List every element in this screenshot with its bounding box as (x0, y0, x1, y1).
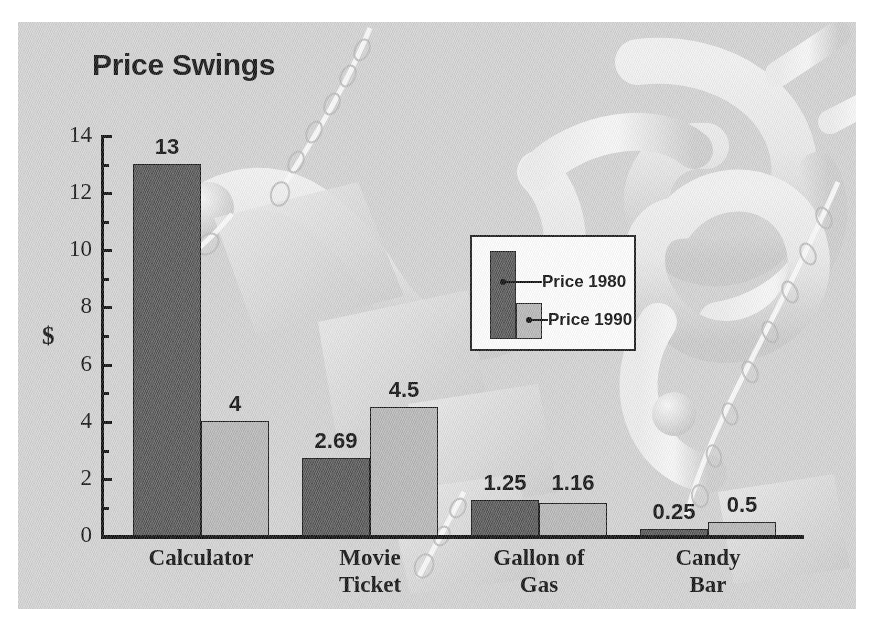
y-tick-label-8: 8 (54, 293, 92, 319)
y-tick-12 (101, 192, 112, 195)
category-label-gallon-of-gas: Gallon of Gas (454, 544, 624, 598)
category-label-movie-ticket: Movie Ticket (285, 544, 455, 598)
legend-label-price-1990: Price 1990 (548, 310, 632, 330)
y-tick-label-12: 12 (54, 179, 92, 205)
bar-value-calculator-1980: 13 (133, 134, 201, 160)
y-tick-minor-5 (101, 392, 109, 395)
bar-candy-bar-1980 (640, 529, 708, 536)
bar-value-gallon-of-gas-1980: 1.25 (467, 470, 543, 496)
bar-value-calculator-1990: 4 (201, 391, 269, 417)
bar-value-candy-bar-1980: 0.25 (636, 499, 712, 525)
y-tick-6 (101, 364, 112, 367)
y-tick-label-10: 10 (54, 236, 92, 262)
y-tick-minor-9 (101, 278, 109, 281)
y-tick-0 (101, 535, 112, 538)
bar-value-movie-ticket-1980: 2.69 (294, 428, 378, 454)
bar-calculator-1980 (133, 164, 201, 536)
bar-movie-ticket-1980 (302, 458, 370, 536)
y-tick-label-4: 4 (54, 408, 92, 434)
y-tick-minor-1 (101, 507, 109, 510)
bar-chart-plot: 14 12 10 8 6 4 2 0 $ 13 4 2.69 4.5 1.25 … (18, 22, 856, 609)
y-tick-label-14: 14 (54, 122, 92, 148)
slide-canvas: Price Swings 14 12 10 8 6 4 2 0 $ (18, 22, 856, 609)
y-tick-8 (101, 306, 112, 309)
legend-leader-line-price-1980 (504, 281, 542, 283)
y-tick-2 (101, 478, 112, 481)
bar-value-gallon-of-gas-1990: 1.16 (535, 470, 611, 496)
legend-leader-line-price-1990 (530, 319, 548, 321)
y-tick-minor-3 (101, 450, 109, 453)
bar-gallon-of-gas-1990 (539, 503, 607, 536)
y-tick-4 (101, 421, 112, 424)
y-axis-title: $ (42, 322, 55, 350)
legend-label-price-1980: Price 1980 (542, 272, 626, 292)
y-tick-minor-11 (101, 221, 109, 224)
category-label-calculator: Calculator (116, 544, 286, 571)
bar-candy-bar-1990 (708, 522, 776, 536)
chart-legend: Price 1980 Price 1990 (470, 235, 636, 351)
y-tick-14 (101, 135, 112, 138)
y-tick-label-6: 6 (54, 351, 92, 377)
y-tick-10 (101, 249, 112, 252)
legend-swatch-price-1980 (490, 251, 516, 339)
y-tick-minor-13 (101, 164, 109, 167)
bar-movie-ticket-1990 (370, 407, 438, 536)
y-tick-label-2: 2 (54, 465, 92, 491)
bar-value-movie-ticket-1990: 4.5 (370, 377, 438, 403)
y-tick-minor-7 (101, 335, 109, 338)
bar-gallon-of-gas-1980 (471, 500, 539, 536)
bar-value-candy-bar-1990: 0.5 (708, 492, 776, 518)
bar-calculator-1990 (201, 421, 269, 536)
category-label-candy-bar: Candy Bar (623, 544, 793, 598)
y-tick-label-0: 0 (54, 522, 92, 548)
